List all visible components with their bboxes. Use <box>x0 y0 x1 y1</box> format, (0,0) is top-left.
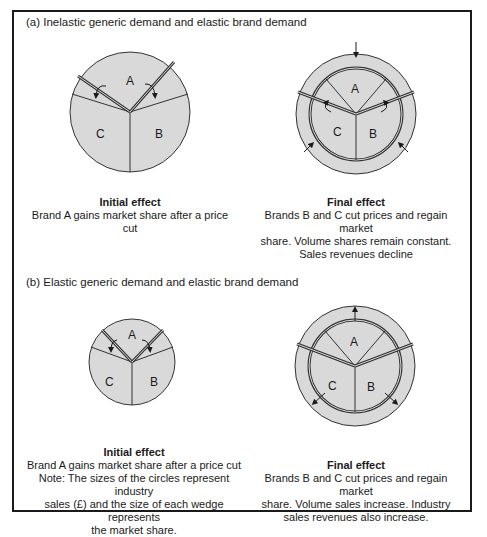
caption-line: the market share. <box>18 524 250 537</box>
caption-line: Note: The sizes of the circles represent… <box>18 472 250 498</box>
caption-heading: Initial effect <box>18 446 250 459</box>
caption-line: cut <box>20 222 240 235</box>
pie-b-final: A C B <box>295 306 415 426</box>
caption-b-final: Final effect Brands B and C cut prices a… <box>248 459 464 524</box>
caption-heading: Final effect <box>248 196 464 209</box>
pie-b-initial: A C B <box>89 319 175 405</box>
wedge-label-b: B <box>150 375 158 389</box>
caption-a-final: Final effect Brands B and C cut prices a… <box>248 196 464 261</box>
caption-line: share. Volume sales increase. Industry <box>248 498 464 511</box>
wedge-label-b: B <box>155 127 163 141</box>
pie-a-final: A C B <box>296 42 416 174</box>
wedge-label-c: C <box>333 125 342 139</box>
caption-a-initial: Initial effect Brand A gains market shar… <box>20 196 240 235</box>
caption-b-initial: Initial effect Brand A gains market shar… <box>18 446 250 537</box>
wedge-label-b: B <box>367 380 375 394</box>
wedge-label-a: A <box>128 328 136 342</box>
caption-line: sales revenues also increase. <box>248 511 464 524</box>
caption-line: sales (£) and the size of each wedge rep… <box>18 498 250 524</box>
caption-heading: Initial effect <box>20 196 240 209</box>
caption-line: Brands B and C cut prices and regain mar… <box>248 472 464 498</box>
caption-line: Brand A gains market share after a price <box>20 209 240 222</box>
caption-line: share. Volume shares remain constant. <box>248 235 464 248</box>
pie-a-initial: A C B <box>70 52 190 172</box>
wedge-label-c: C <box>105 375 114 389</box>
wedge-label-c: C <box>96 127 105 141</box>
wedge-label-b: B <box>369 127 377 141</box>
caption-heading: Final effect <box>248 459 464 472</box>
wedge-label-a: A <box>351 82 359 96</box>
wedge-label-c: C <box>328 379 337 393</box>
caption-line: Brands B and C cut prices and regain mar… <box>248 209 464 235</box>
caption-line: Sales revenues decline <box>248 248 464 261</box>
caption-line: Brand A gains market share after a price… <box>18 459 250 472</box>
wedge-label-a: A <box>126 74 134 88</box>
wedge-label-a: A <box>350 335 358 349</box>
